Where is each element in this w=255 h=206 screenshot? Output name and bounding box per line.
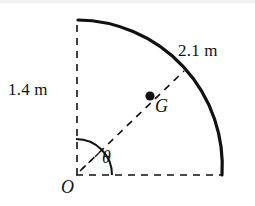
inner-radius-label: 1.4 m: [8, 81, 48, 98]
centroid-dot: [145, 91, 154, 100]
angle-tick-dash: [82, 152, 100, 169]
angle-label: θ: [102, 148, 111, 166]
diagram-canvas: [0, 0, 255, 206]
outer-radius-label: 2.1 m: [178, 42, 218, 59]
figure-container: 1.4 m 2.1 m G O θ: [0, 0, 255, 206]
origin-label: O: [61, 178, 74, 196]
centroid-label: G: [155, 97, 168, 115]
